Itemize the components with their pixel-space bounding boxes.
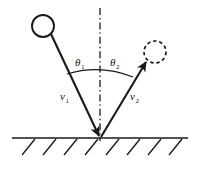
- theta-reflected-label: θ2: [110, 56, 120, 71]
- velocity-reflected-label: v2: [130, 90, 139, 105]
- physics-diagram-container: θ1 θ2 v1 v2: [0, 0, 199, 171]
- incoming-ball-icon: [32, 15, 54, 37]
- outgoing-ball-icon: [144, 41, 166, 63]
- bounce-diagram-svg: θ1 θ2 v1 v2: [0, 0, 199, 171]
- theta-incident-label: θ1: [75, 56, 85, 71]
- ground-hatching: [22, 139, 182, 155]
- velocity-incident-label: v1: [60, 90, 69, 105]
- incident-velocity-arrow: [51, 34, 99, 136]
